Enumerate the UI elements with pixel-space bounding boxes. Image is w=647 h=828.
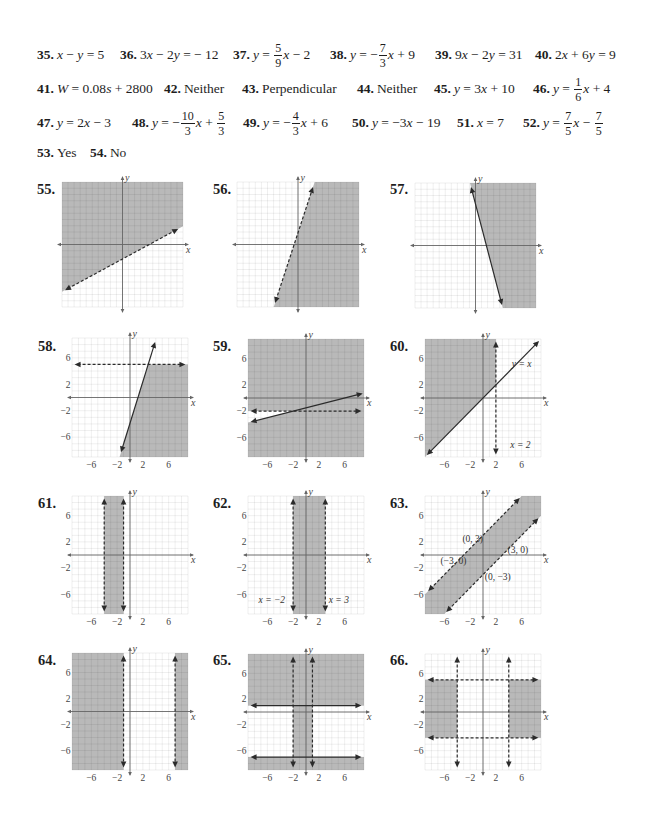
axis-arrow-icon xyxy=(304,459,308,463)
y-tick-label: −6 xyxy=(413,590,423,600)
x-axis-label: x xyxy=(543,397,549,408)
graph-annotation: y = x xyxy=(511,359,532,369)
axis-arrow-icon xyxy=(243,396,247,400)
axis-arrow-icon xyxy=(121,309,125,313)
y-tick-label: −6 xyxy=(236,590,246,600)
axis-arrow-icon xyxy=(232,243,236,247)
y-tick-label: 2 xyxy=(419,537,424,547)
x-tick-label: −2 xyxy=(112,460,122,470)
y-tick-label: −2 xyxy=(60,563,70,573)
x-axis-label: x xyxy=(190,397,196,408)
graph-annotation: (3, 0) xyxy=(508,545,529,556)
y-axis-label: y xyxy=(300,172,306,183)
graph-56: xy xyxy=(232,172,367,313)
graph-number-label: 60. xyxy=(390,338,408,354)
x-tick-label: −6 xyxy=(262,617,272,627)
x-axis-label: x xyxy=(366,397,372,408)
axis-arrow-icon xyxy=(128,332,132,336)
graph-number-label: 55. xyxy=(37,181,55,197)
shaded-region xyxy=(509,680,541,738)
x-tick-label: −2 xyxy=(112,617,122,627)
graph-number-label: 62. xyxy=(213,495,231,511)
x-axis-label: x xyxy=(185,244,191,255)
y-tick-label: 2 xyxy=(66,537,71,547)
y-tick-label: 6 xyxy=(66,511,71,521)
x-tick-label: 2 xyxy=(494,617,499,627)
y-tick-label: −6 xyxy=(236,433,246,443)
axis-arrow-icon xyxy=(67,396,71,400)
y-tick-label: 2 xyxy=(66,380,71,390)
y-tick-label: −6 xyxy=(413,433,423,443)
y-axis-label: y xyxy=(308,644,314,655)
y-axis-label: y xyxy=(132,486,138,497)
y-tick-label: 6 xyxy=(419,354,424,364)
axis-arrow-icon xyxy=(304,772,308,776)
x-tick-label: 6 xyxy=(519,773,524,783)
y-tick-label: 6 xyxy=(242,354,247,364)
y-tick-label: 2 xyxy=(242,694,247,704)
axis-arrow-icon xyxy=(474,177,478,181)
y-tick-label: −2 xyxy=(236,563,246,573)
y-axis-label: y xyxy=(485,644,491,655)
x-tick-label: 2 xyxy=(141,617,146,627)
axis-arrow-icon xyxy=(304,616,308,620)
y-tick-label: −6 xyxy=(60,590,70,600)
x-tick-label: 6 xyxy=(342,617,347,627)
x-axis-label: x xyxy=(366,711,372,722)
graph-number-label: 59. xyxy=(213,338,231,354)
graph-55: xy xyxy=(57,172,191,313)
x-tick-label: 6 xyxy=(166,773,171,783)
axis-arrow-icon xyxy=(481,459,485,463)
x-tick-label: −6 xyxy=(262,773,272,783)
x-tick-label: −6 xyxy=(439,617,449,627)
x-tick-label: −2 xyxy=(465,617,475,627)
graph-66: xy−6−22662−2−6 xyxy=(413,644,549,783)
graph-number-label: 63. xyxy=(390,495,408,511)
x-tick-label: −6 xyxy=(86,773,96,783)
x-tick-label: −2 xyxy=(112,773,122,783)
y-tick-label: −2 xyxy=(60,406,70,416)
axis-arrow-icon xyxy=(420,710,424,714)
x-tick-label: 6 xyxy=(166,460,171,470)
graphs-canvas: xyxyxyxy−6−22662−2−6xy−6−22662−2−6xy−6−2… xyxy=(0,0,647,828)
y-tick-label: −2 xyxy=(413,406,423,416)
x-tick-label: −6 xyxy=(86,617,96,627)
y-axis-label: y xyxy=(132,643,138,654)
y-tick-label: 6 xyxy=(242,511,247,521)
axis-arrow-icon xyxy=(296,309,300,313)
axis-arrow-icon xyxy=(304,490,308,494)
axis-arrow-icon xyxy=(296,176,300,180)
axis-arrow-icon xyxy=(481,333,485,337)
y-tick-label: −6 xyxy=(60,432,70,442)
x-tick-label: 6 xyxy=(342,460,347,470)
graph-60: xy−6−22662−2−6y = xx = 2 xyxy=(413,329,549,470)
axis-arrow-icon xyxy=(128,490,132,494)
graph-annotation: (0, −3) xyxy=(485,572,511,583)
graph-number-label: 64. xyxy=(38,652,56,668)
axis-arrow-icon xyxy=(304,648,308,652)
shaded-region xyxy=(425,680,457,738)
graph-annotation: x = 3 xyxy=(328,595,349,605)
x-tick-label: −6 xyxy=(439,773,449,783)
graph-number-label: 58. xyxy=(38,338,56,354)
x-tick-label: 2 xyxy=(317,773,322,783)
axis-arrow-icon xyxy=(128,772,132,776)
x-tick-label: 2 xyxy=(494,460,499,470)
x-axis-label: x xyxy=(190,554,196,565)
graph-58: xy−6−22662−2−6 xyxy=(60,328,196,470)
y-axis-label: y xyxy=(485,486,491,497)
x-axis-label: x xyxy=(366,554,372,565)
axis-arrow-icon xyxy=(481,490,485,494)
x-tick-label: 2 xyxy=(494,773,499,783)
x-tick-label: −6 xyxy=(86,460,96,470)
y-tick-label: −6 xyxy=(60,746,70,756)
axis-arrow-icon xyxy=(128,459,132,463)
y-tick-label: 6 xyxy=(419,511,424,521)
y-tick-label: −6 xyxy=(236,746,246,756)
y-tick-label: −6 xyxy=(413,746,423,756)
axis-arrow-icon xyxy=(128,647,132,651)
axis-arrow-icon xyxy=(481,648,485,652)
axis-arrow-icon xyxy=(121,176,125,180)
y-axis-label: y xyxy=(477,173,483,184)
graph-63: xy−6−22662−2−6(0, 3)(3, 0)(−3, 0)(0, −3) xyxy=(413,486,549,627)
